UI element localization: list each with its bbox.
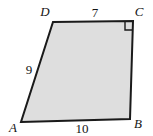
vertex-label-b: B: [134, 116, 142, 131]
side-length-label-ab: 10: [76, 121, 89, 136]
quadrilateral-diagram: A B C D 7 9 10: [0, 0, 153, 136]
vertex-label-a: A: [8, 120, 17, 135]
side-length-label-ad: 9: [26, 62, 33, 77]
geometry-figure: A B C D 7 9 10: [0, 0, 153, 136]
vertex-label-c: C: [135, 4, 144, 19]
side-length-label-dc: 7: [92, 5, 99, 20]
quadrilateral-shape: [21, 21, 133, 122]
vertex-label-d: D: [39, 4, 50, 19]
